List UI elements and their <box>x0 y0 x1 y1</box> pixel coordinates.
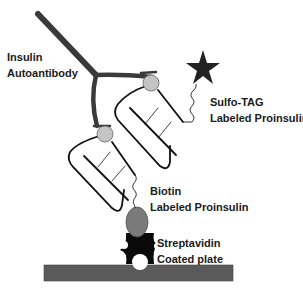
sulfotag-tether <box>183 84 196 122</box>
upper-epitope-icon <box>143 75 159 91</box>
biotin-tether <box>133 175 137 208</box>
assay-diagram <box>0 0 303 288</box>
biotin-label-line2: Labeled Proinsulin <box>150 199 248 215</box>
antibody-label-line1: Insulin <box>7 49 78 65</box>
streptavidin-label: Streptavidin Coated plate <box>157 235 223 267</box>
biotin-label-line1: Biotin <box>150 183 248 199</box>
antibody-label: Insulin Autoantibody <box>7 49 78 81</box>
streptavidin-label-line2: Coated plate <box>157 251 223 267</box>
streptavidin-label-line1: Streptavidin <box>157 235 223 251</box>
sulfotag-label-line1: Sulfo-TAG <box>210 94 303 110</box>
sulfotag-label-line2: Labeled Proinsulin <box>210 110 303 126</box>
sulfotag-proinsulin-molecule <box>115 86 183 168</box>
sulfotag-star-icon <box>186 50 220 84</box>
streptavidin-icon <box>120 233 160 270</box>
antibody-label-line2: Autoantibody <box>7 65 78 81</box>
lower-epitope-icon <box>97 126 113 142</box>
biotin-label: Biotin Labeled Proinsulin <box>150 183 248 215</box>
biotin-proinsulin-molecule <box>69 136 135 211</box>
biotin-icon <box>126 207 148 237</box>
sulfotag-label: Sulfo-TAG Labeled Proinsulin <box>210 94 303 126</box>
